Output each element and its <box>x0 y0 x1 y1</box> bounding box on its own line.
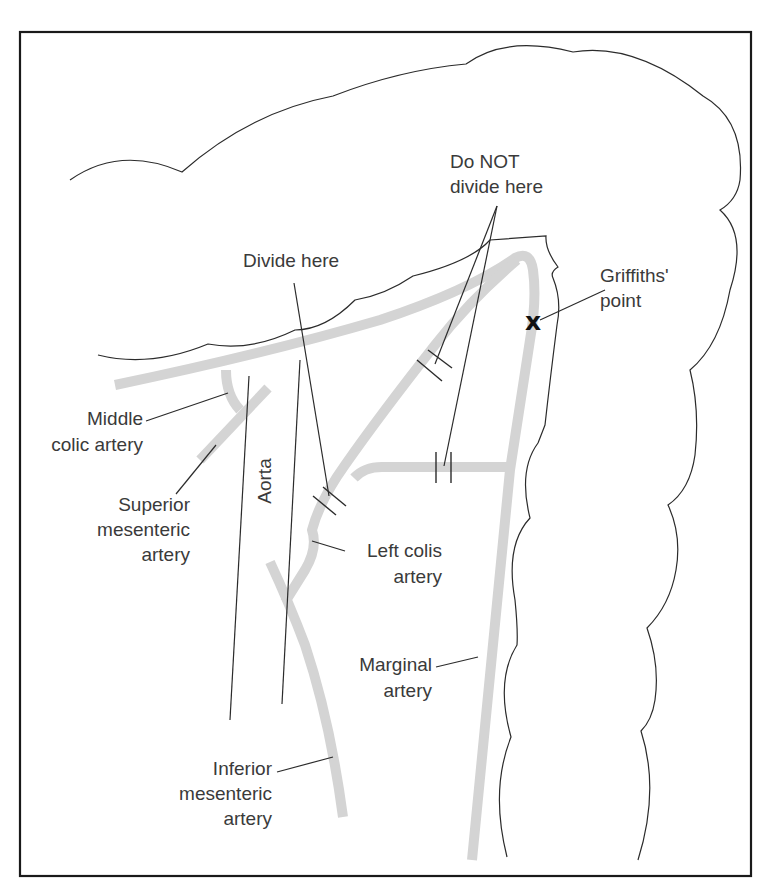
inferior-mesenteric-artery <box>270 562 343 817</box>
horizontal-branch <box>354 467 508 478</box>
label-superior-mesenteric-line3: artery <box>141 544 190 565</box>
label-superior-mesenteric-line1: Superior <box>118 494 190 515</box>
inferior-mesenteric-leader <box>277 757 333 772</box>
label-left-colis-line2: artery <box>393 566 442 587</box>
griffiths-point-marker: x <box>525 307 541 336</box>
middle-colic-branch <box>226 370 240 410</box>
label-middle-colic-line2: colic artery <box>51 434 143 455</box>
label-divide-here: Divide here <box>243 250 339 271</box>
label-inferior-mesenteric-line1: Inferior <box>213 758 273 779</box>
do-not-divide-leader-2 <box>444 206 497 466</box>
label-aorta: Aorta <box>254 458 275 504</box>
divide-here-leader <box>294 283 329 496</box>
marginal-leader <box>436 657 478 667</box>
griffiths-leader <box>540 290 605 320</box>
label-left-colis-line1: Left colis <box>367 540 442 561</box>
colon-blood-supply-diagram: x Divide here Do NOT divide here Griffit… <box>0 0 769 890</box>
superior-mesenteric-leader <box>176 445 216 494</box>
label-griffiths-line2: point <box>600 290 642 311</box>
aorta-right-wall <box>282 360 300 704</box>
label-superior-mesenteric-line2: mesenteric <box>97 519 190 540</box>
label-inferior-mesenteric-line2: mesenteric <box>179 783 272 804</box>
label-do-not-line2: divide here <box>450 176 543 197</box>
label-marginal-line2: artery <box>383 680 432 701</box>
middle-colic-leader <box>146 393 228 421</box>
label-inferior-mesenteric-line3: artery <box>223 808 272 829</box>
label-griffiths-line1: Griffiths' <box>600 265 669 286</box>
label-do-not-line1: Do NOT <box>450 151 520 172</box>
label-marginal-line1: Marginal <box>359 654 432 675</box>
colon-outline <box>70 46 741 860</box>
label-middle-colic-line1: Middle <box>87 408 143 429</box>
